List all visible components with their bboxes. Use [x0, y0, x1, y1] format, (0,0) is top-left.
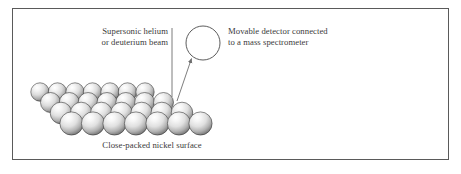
nickel-surface-lattice — [31, 83, 212, 135]
figure-container: Supersonic helium or deuterium beam Mova… — [0, 0, 461, 174]
beam-label: Supersonic helium or deuterium beam — [52, 26, 168, 47]
nickel-atom-sphere — [81, 112, 104, 135]
surface-caption: Close-packed nickel surface — [62, 140, 242, 151]
detector-label-line2: to a mass spectrometer — [228, 37, 308, 47]
nickel-atom-sphere — [124, 112, 147, 135]
detector-label-line1: Movable detector connected — [228, 26, 328, 36]
nickel-atom-sphere — [103, 112, 126, 135]
beam-label-line2: or deuterium beam — [102, 37, 168, 47]
nickel-atom-sphere — [167, 112, 190, 135]
detector-label: Movable detector connected to a mass spe… — [228, 26, 408, 47]
detector-circle — [186, 26, 220, 60]
nickel-atom-sphere — [60, 112, 83, 135]
nickel-atom-sphere — [189, 112, 212, 135]
nickel-atom-sphere — [146, 112, 169, 135]
scattered-beam-arrow — [177, 59, 192, 102]
beam-label-line1: Supersonic helium — [102, 26, 168, 36]
